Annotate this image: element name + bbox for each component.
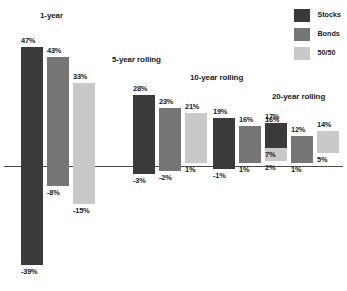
bar-value-label-low: -8% <box>47 189 69 196</box>
bar-bonds[interactable] <box>239 126 261 164</box>
bar-value-label-low: -3% <box>133 177 155 184</box>
bar-value-label-low: 2% <box>265 164 287 171</box>
bar-value-label-high: 33% <box>73 73 95 80</box>
bar-value-label-low: 1% <box>291 166 313 173</box>
bar-value-label-high: 43% <box>47 47 69 54</box>
bar-value-label-high: 21% <box>185 103 207 110</box>
bar-50-50[interactable] <box>185 113 207 164</box>
legend-item: Stocks <box>294 8 341 22</box>
bar-bonds[interactable] <box>291 136 313 164</box>
group-title: 5-year rolling <box>112 56 161 64</box>
bar-value-label-high: 19% <box>213 108 235 115</box>
legend-swatch-stocks <box>294 9 310 22</box>
bar-stocks[interactable] <box>213 118 235 169</box>
bar-50-50[interactable] <box>317 131 339 154</box>
chart-legend: Stocks Bonds 50/50 <box>294 8 341 65</box>
bar-50-50[interactable] <box>73 83 95 204</box>
group-title: 20-year rolling <box>272 93 325 101</box>
rolling-returns-bar-chart: 47%-39%43%-8%33%-15%28%-3%23%-2%21%1%19%… <box>0 0 347 291</box>
bar-value-label-high: 14% <box>317 121 339 128</box>
bar-value-label-low: -1% <box>213 172 235 179</box>
legend-label-bonds: Bonds <box>317 30 339 37</box>
bar-value-label-low: -2% <box>159 174 181 181</box>
bar-value-label-low: 5% <box>317 156 339 163</box>
legend-swatch-5050 <box>294 47 310 60</box>
bar-stocks[interactable] <box>265 123 287 148</box>
legend-item: Bonds <box>294 27 341 41</box>
bar-value-label-high: 16% <box>239 116 261 123</box>
bar-stocks[interactable] <box>133 95 155 173</box>
bar-stocks[interactable] <box>21 47 43 265</box>
bar-value-label-low: 7% <box>265 151 287 158</box>
bar-value-label-high: 47% <box>21 37 43 44</box>
legend-label-stocks: Stocks <box>317 11 341 18</box>
legend-item: 50/50 <box>294 46 341 60</box>
group-title: 10-year rolling <box>190 74 243 82</box>
bar-value-label-high: 12% <box>291 126 313 133</box>
bar-value-label-low: 1% <box>185 166 207 173</box>
bar-value-label-high: 23% <box>159 98 181 105</box>
bar-bonds[interactable] <box>159 108 181 171</box>
bar-value-label-low: 1% <box>239 166 261 173</box>
legend-label-5050: 50/50 <box>317 49 335 56</box>
group-title: 1-year <box>40 12 63 20</box>
bar-value-label-high: 28% <box>133 85 155 92</box>
bar-bonds[interactable] <box>47 57 69 186</box>
bar-value-label-high: 17% <box>265 113 287 120</box>
bar-value-label-low: -39% <box>21 268 43 275</box>
legend-swatch-bonds <box>294 28 310 41</box>
bar-value-label-low: -15% <box>73 207 95 214</box>
